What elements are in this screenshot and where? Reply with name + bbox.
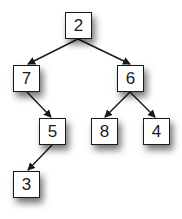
tree-node-left: 7: [13, 65, 40, 92]
tree-node-left-right: 5: [39, 118, 66, 145]
node-label: 5: [48, 122, 57, 142]
node-label: 2: [74, 16, 83, 36]
edge-7-5: [27, 92, 51, 117]
node-label: 3: [22, 175, 31, 195]
tree-node-root: 2: [65, 12, 92, 39]
node-label: 6: [126, 69, 135, 89]
edge-2-6: [78, 39, 130, 64]
edge-5-3: [28, 145, 52, 170]
node-label: 8: [100, 122, 109, 142]
tree-node-right-right: 4: [143, 118, 170, 145]
edge-2-7: [28, 39, 78, 64]
tree-node-left-right-left: 3: [13, 171, 40, 198]
edge-6-8: [105, 92, 130, 117]
tree-node-right: 6: [117, 65, 144, 92]
edge-6-4: [130, 92, 155, 117]
tree-node-right-left: 8: [91, 118, 118, 145]
node-label: 4: [152, 122, 161, 142]
node-label: 7: [22, 69, 31, 89]
tree-diagram: 2 7 6 5 8 4 3: [0, 0, 182, 219]
